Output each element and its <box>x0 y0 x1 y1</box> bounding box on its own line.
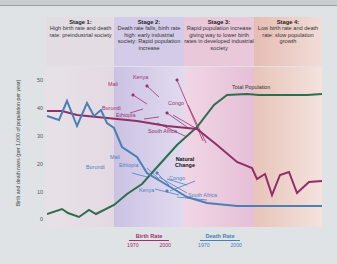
y-tick: 50 <box>33 77 43 83</box>
plot-area: Total Population Mali Kenya Burundi Ethi… <box>47 67 322 227</box>
label-kenya-death: Kenya <box>139 187 154 193</box>
legend-death-rate: Death Rate 1970 2000 <box>198 233 242 248</box>
y-axis-label: Birth and death rates (per 1,000 of popu… <box>15 73 21 213</box>
stage-1-header: Stage 1: High birth rate and death rate:… <box>47 17 114 66</box>
stage-3-header: Stage 3: Rapid population increase givin… <box>184 17 254 66</box>
natural-change-label: Natural Change <box>172 156 198 168</box>
y-tick: 10 <box>33 189 43 195</box>
stage-3-text: Rapid population increase giving way to … <box>184 25 254 50</box>
label-congo-birth: Congo <box>168 100 184 106</box>
legend-birth-rate: Birth Rate 1970 2000 <box>127 233 171 248</box>
stage-2-header: Stage 2: Death rate falls, birth rate hi… <box>114 17 184 66</box>
y-tick: 20 <box>33 161 43 167</box>
y-tick: 0 <box>33 216 43 222</box>
label-burundi-birth: Burundi <box>102 105 121 111</box>
legend-birth-to: 2000 <box>159 242 171 248</box>
top-border <box>0 0 337 6</box>
label-burundi-death: Burundi <box>86 164 105 170</box>
legend-death-arrow <box>200 240 240 241</box>
total-population-label: Total Population <box>232 84 270 90</box>
legend-birth-arrow <box>129 240 169 241</box>
stage-4-text: Low birth rate and death rate: slow popu… <box>258 25 318 44</box>
label-mali-death: Mali <box>110 154 120 160</box>
label-kenya-birth: Kenya <box>133 74 148 80</box>
stage-2-text: Death rate falls, birth rate high: early… <box>118 25 181 50</box>
legend-birth-from: 1970 <box>127 242 139 248</box>
stage-1-text: High birth rate and death rate: preindus… <box>49 25 111 37</box>
label-south-africa-birth: South Africa <box>148 128 177 134</box>
stage-4-header: Stage 4: Low birth rate and death rate: … <box>254 17 322 66</box>
legend-death-to: 2000 <box>230 242 242 248</box>
label-ethiopia-death: Ethiopia <box>119 162 138 168</box>
legend-death-label: Death Rate <box>198 233 242 239</box>
y-tick: 40 <box>33 105 43 111</box>
label-congo-death: Congo <box>169 175 185 181</box>
legend-death-from: 1970 <box>198 242 210 248</box>
legend-birth-label: Birth Rate <box>127 233 171 239</box>
label-mali-birth: Mali <box>108 81 118 87</box>
chart-lines <box>47 67 322 227</box>
label-south-africa-death: South Africa <box>188 192 217 198</box>
y-tick: 30 <box>33 133 43 139</box>
label-ethiopia-birth: Ethiopia <box>116 112 135 118</box>
